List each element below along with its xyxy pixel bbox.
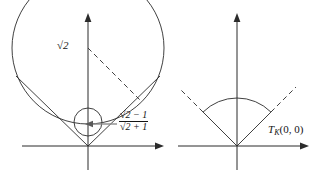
- fraction-denominator: √2 + 1: [119, 122, 148, 132]
- tangent-line-left: [16, 76, 88, 146]
- right-x-axis-arrowhead: [300, 143, 309, 150]
- tangent-cone-label-point: (0, 0): [279, 123, 303, 135]
- radius-dashed-line: [88, 48, 141, 101]
- fraction-leader-arrowhead: [85, 121, 93, 127]
- cone-ray-right-dashed: [271, 87, 296, 112]
- right-y-axis-arrowhead: [234, 13, 241, 22]
- sqrt2-label: √2: [57, 40, 69, 51]
- left-x-axis-arrowhead: [155, 143, 164, 150]
- cone-ray-left-dashed: [180, 89, 203, 112]
- left-panel-group: [12, 0, 164, 170]
- figure-canvas: [0, 0, 319, 171]
- right-x-axis: [178, 143, 309, 150]
- left-x-axis: [22, 143, 164, 150]
- cone-ray-right-solid: [237, 112, 271, 146]
- fraction-numerator: √2 − 1: [119, 110, 148, 120]
- cone-ray-left-solid: [203, 112, 237, 146]
- tangent-cone-label: TK(0, 0): [268, 124, 303, 137]
- right-panel-group: [178, 13, 309, 170]
- left-y-axis-arrowhead: [85, 13, 92, 22]
- radius-fraction-label: √2 − 1 √2 + 1: [119, 110, 148, 132]
- geometric-figure: √2 √2 − 1 √2 + 1 TK(0, 0): [0, 0, 319, 171]
